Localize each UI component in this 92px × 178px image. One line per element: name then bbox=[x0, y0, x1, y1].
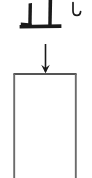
box-fill bbox=[14, 74, 76, 178]
glyph-left-vertical-stroke bbox=[28, 3, 32, 26]
open-top-box-icon bbox=[13, 74, 76, 178]
glyph-right-vertical-stroke bbox=[48, 0, 52, 27]
diagram-canvas: Character stroke into box 止 し bbox=[0, 0, 92, 178]
diagram-vector-layer bbox=[0, 0, 92, 178]
